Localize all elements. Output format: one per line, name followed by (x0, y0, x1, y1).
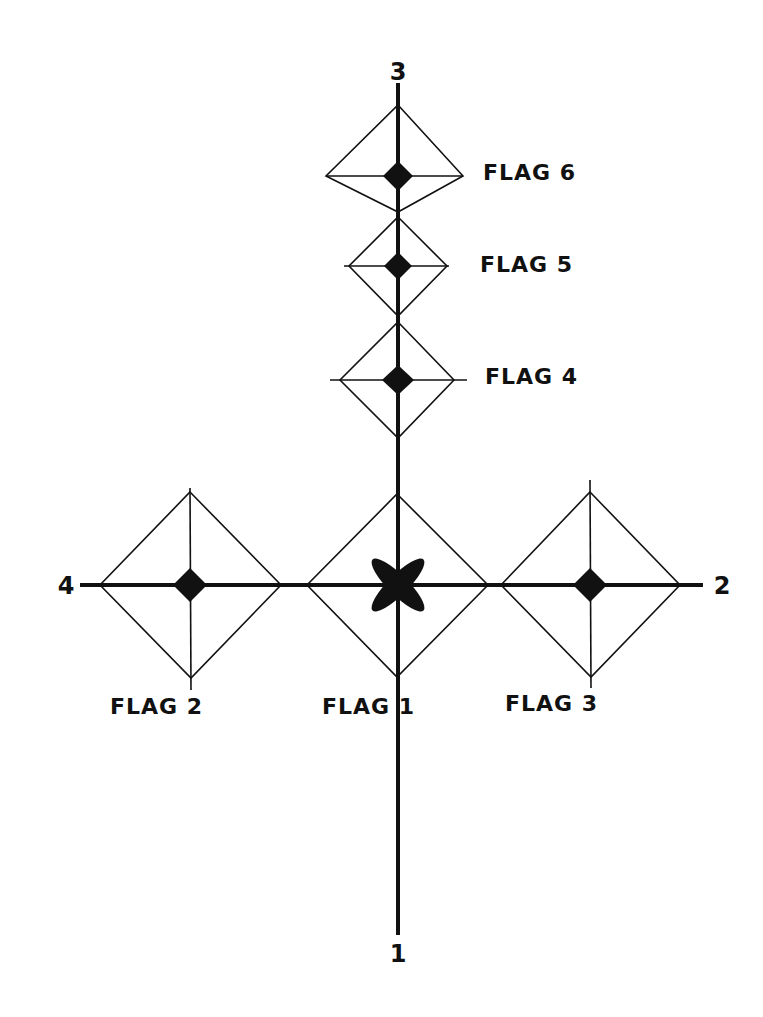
axis-label-top: 3 (390, 58, 407, 86)
flag-layout-diagram: 3 2 1 4 FLAG 6 FLAG 5 FLAG 4 FLAG 1 FLAG… (0, 0, 763, 1017)
flag-6-label: FLAG 6 (483, 160, 576, 185)
axis-label-right: 2 (714, 572, 731, 600)
axis-label-left: 4 (58, 572, 75, 600)
flag-3-label: FLAG 3 (505, 691, 598, 716)
flag-5-label: FLAG 5 (480, 252, 573, 277)
flag-4-label: FLAG 4 (485, 364, 578, 389)
flag-2-label: FLAG 2 (110, 694, 203, 719)
flag-1-label: FLAG 1 (322, 694, 415, 719)
axis-label-bottom: 1 (390, 940, 407, 968)
